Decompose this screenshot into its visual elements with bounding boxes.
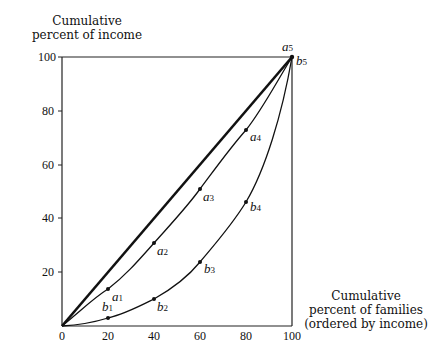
label-a3: a3 [203, 190, 214, 205]
y-tick-60: 60 [30, 158, 54, 172]
label-b1: b1 [102, 300, 113, 315]
label-a2: a2 [157, 244, 168, 259]
label-a4: a4 [250, 130, 261, 145]
x-axis-title: Cumulative percent of families (ordered … [304, 289, 428, 331]
x-tick-100: 100 [280, 329, 304, 341]
label-b4: b4 [250, 200, 261, 215]
label-a5: a5 [282, 40, 293, 55]
label-b2: b2 [157, 300, 168, 315]
label-b3: b3 [204, 262, 215, 277]
y-tick-100: 100 [30, 50, 56, 64]
x-tick-40: 40 [144, 329, 164, 341]
x-tick-20: 20 [98, 329, 118, 341]
y-tick-20: 20 [30, 265, 54, 279]
x-tick-60: 60 [190, 329, 210, 341]
x-axis-title-line1: Cumulative [304, 289, 428, 303]
label-b5: b5 [296, 54, 307, 69]
y-tick-80: 80 [30, 104, 54, 118]
x-tick-80: 80 [236, 329, 256, 341]
data-points [106, 55, 294, 320]
equality-line [62, 57, 292, 326]
label-a1: a1 [112, 290, 123, 305]
y-tick-40: 40 [30, 211, 54, 225]
x-axis-title-line2: percent of families [304, 303, 428, 317]
x-axis-title-line3: (ordered by income) [304, 317, 428, 331]
x-tick-0: 0 [52, 329, 72, 341]
